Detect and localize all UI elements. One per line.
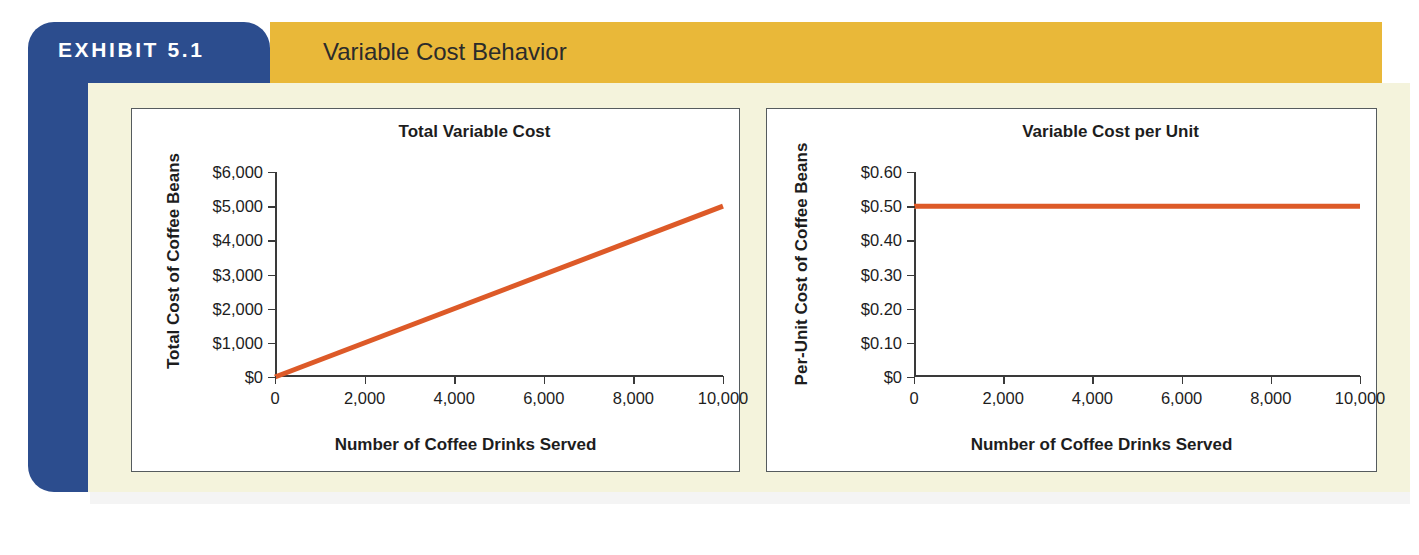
x-tick-label: 4,000 [434,389,475,408]
y-tick [268,172,276,173]
exhibit-tab-label: EXHIBIT 5.1 [58,38,204,62]
series-line-per-unit [914,172,1360,377]
y-tick [907,240,915,241]
y-axis-title-total: Total Cost of Coffee Beans [164,136,184,386]
y-tick-label: $1,000 [213,333,263,352]
y-tick-label: $2,000 [213,299,263,318]
y-tick [907,172,915,173]
x-tick [365,376,366,384]
x-tick-label: 0 [270,389,279,408]
y-tick [268,275,276,276]
exhibit-body-panel: Total Variable Cost Total Cost of Coffee… [88,83,1410,492]
y-axis-title-per-unit: Per-Unit Cost of Coffee Beans [792,139,812,389]
x-tick [1271,376,1272,384]
y-tick-label: $0.60 [861,163,902,182]
y-tick [268,240,276,241]
y-tick [907,343,915,344]
y-tick [907,309,915,310]
y-tick [907,275,915,276]
panel-shadow [90,492,1410,504]
x-tick-label: 8,000 [1250,389,1291,408]
x-tick [1360,376,1361,384]
series-line-total [275,172,723,377]
y-tick [907,206,915,207]
y-tick [268,309,276,310]
x-tick [914,376,915,384]
x-tick-label: 10,000 [1335,389,1385,408]
x-tick [633,376,634,384]
y-tick [268,343,276,344]
y-tick-label: $6,000 [213,163,263,182]
y-tick-label: $5,000 [213,197,263,216]
x-tick-label: 6,000 [523,389,564,408]
x-tick-label: 0 [909,389,918,408]
plot-area-total: $0$1,000$2,000$3,000$4,000$5,000$6,00002… [275,172,723,377]
chart-variable-cost-per-unit: Variable Cost per Unit Per-Unit Cost of … [766,108,1377,472]
x-tick [723,376,724,384]
plot-area-per-unit: $0$0.10$0.20$0.30$0.40$0.50$0.6002,0004,… [914,172,1360,377]
chart-title-total: Total Variable Cost [132,122,739,142]
exhibit-title: Variable Cost Behavior [323,38,567,66]
x-tick-label: 2,000 [344,389,385,408]
y-tick-label: $0 [245,368,263,387]
y-tick-label: $0.30 [861,265,902,284]
y-tick-label: $0.10 [861,333,902,352]
x-tick [275,376,276,384]
y-tick-label: $0.40 [861,231,902,250]
exhibit-figure: EXHIBIT 5.1 Variable Cost Behavior Total… [28,22,1382,514]
x-tick [544,376,545,384]
x-tick-label: 10,000 [698,389,748,408]
x-tick-label: 6,000 [1161,389,1202,408]
chart-title-per-unit: Variable Cost per Unit [767,122,1376,142]
x-tick [1003,376,1004,384]
y-tick-label: $4,000 [213,231,263,250]
x-tick [1092,376,1093,384]
x-axis-title-per-unit: Number of Coffee Drinks Served [827,435,1376,455]
y-tick [268,206,276,207]
x-tick [1182,376,1183,384]
chart-total-variable-cost: Total Variable Cost Total Cost of Coffee… [131,108,740,472]
x-tick [454,376,455,384]
y-tick-label: $0 [884,368,902,387]
y-tick-label: $0.20 [861,299,902,318]
y-tick-label: $3,000 [213,265,263,284]
x-tick-label: 4,000 [1072,389,1113,408]
y-tick-label: $0.50 [861,197,902,216]
x-axis-title-total: Number of Coffee Drinks Served [192,435,739,455]
x-tick-label: 8,000 [613,389,654,408]
x-tick-label: 2,000 [983,389,1024,408]
